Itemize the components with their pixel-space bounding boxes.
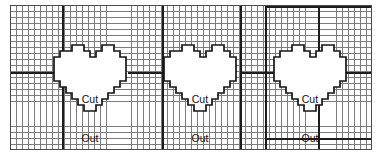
heart-cutout-3: Cut Out (262, 39, 358, 123)
heart-label-1-line-1: Cut (42, 93, 138, 106)
heart-label-2-line-1: Cut (152, 93, 248, 106)
heart-label-3-line-2: Out (262, 132, 358, 145)
paper-speck (189, 30, 193, 34)
heart-label-1-line-2: Out (42, 132, 138, 145)
bold-horizontal-band-top (265, 6, 372, 8)
heart-label-1: Cut Out (42, 67, 138, 162)
heart-label-2-line-2: Out (152, 132, 248, 145)
heart-label-2: Cut Out (152, 67, 248, 162)
heart-label-3-line-1: Cut (262, 93, 358, 106)
heart-label-3: Cut Out (262, 67, 358, 162)
heart-cutout-1: Cut Out (42, 39, 138, 123)
pattern-canvas: Cut Out Cut Out Cut Out (0, 0, 385, 162)
heart-cutout-2: Cut Out (152, 39, 248, 123)
